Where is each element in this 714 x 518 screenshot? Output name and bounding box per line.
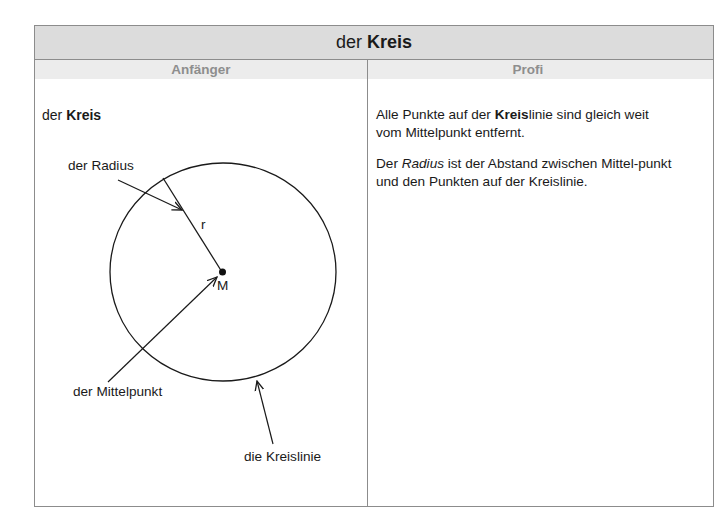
p1-bold: Kreis [495,107,529,122]
label-r: r [201,217,206,232]
label-center-m: M [217,278,228,293]
label-radius: der Radius [68,158,134,173]
p2-italic: Radius [402,156,444,171]
beginner-heading: der Kreis [42,107,101,123]
p2-part1: Der [376,156,402,171]
label-midpoint: der Mittelpunkt [73,384,162,399]
title-bold: Kreis [367,32,412,52]
p1-part1: Alle Punkte auf der [376,107,495,122]
beginner-column: der Kreis [35,79,367,506]
heading-prefix: der [42,107,66,123]
table-title: der Kreis [35,26,713,60]
heading-bold: Kreis [66,107,101,123]
label-circumference: die Kreislinie [244,449,321,464]
pro-paragraph-2: Der Radius ist der Abstand zwischen Mitt… [376,155,676,191]
level-header-row: Anfänger Profi [35,60,713,79]
pro-column: Alle Punkte auf der Kreislinie sind glei… [368,79,708,506]
pro-paragraph-1: Alle Punkte auf der Kreislinie sind glei… [376,106,676,142]
level-header-pro: Profi [368,60,688,79]
level-header-beginner: Anfänger [35,60,367,79]
pro-text: Alle Punkte auf der Kreislinie sind glei… [376,106,676,204]
concept-table: der Kreis Anfänger Profi der Kreis Alle … [34,25,714,507]
title-prefix: der [336,32,367,52]
